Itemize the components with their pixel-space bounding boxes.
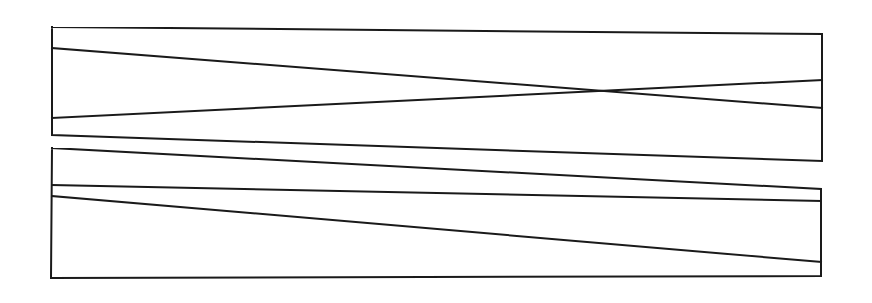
lower-slope-line	[52, 196, 821, 262]
upper-slope-line	[52, 185, 821, 201]
top-panel-outline	[52, 27, 822, 161]
bottom-panel-outline	[51, 148, 821, 278]
bottom-panel	[51, 148, 821, 278]
top-panel	[52, 27, 822, 161]
line-diagram	[0, 0, 872, 303]
